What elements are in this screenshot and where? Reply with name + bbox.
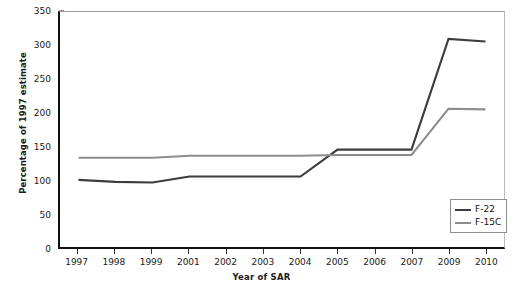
x-axis-title: Year of SAR: [0, 272, 523, 282]
legend-swatch-icon: [455, 222, 471, 224]
legend-swatch-icon: [455, 209, 471, 211]
x-tick-mark: [337, 249, 338, 254]
x-tick-mark: [77, 249, 78, 254]
y-tick-label: 250: [11, 74, 51, 84]
y-tick-label: 50: [11, 210, 51, 220]
y-tick-label: 350: [11, 6, 51, 16]
chart-legend: F-22F-15C: [450, 199, 507, 233]
y-tick-label: 300: [11, 40, 51, 50]
legend-label: F-22: [475, 203, 495, 216]
legend-label: F-15C: [475, 216, 501, 229]
y-tick-label: 100: [11, 176, 51, 186]
y-tick-label: 200: [11, 108, 51, 118]
y-tick-label: 0: [11, 244, 51, 254]
x-tick-mark: [188, 249, 189, 254]
legend-item-f-15c: F-15C: [455, 216, 501, 229]
series-line-f-22: [79, 39, 486, 183]
x-tick-mark: [151, 249, 152, 254]
legend-item-f-22: F-22: [455, 203, 501, 216]
x-tick-mark: [300, 249, 301, 254]
series-line-f-15c: [79, 109, 486, 158]
x-tick-mark: [263, 249, 264, 254]
plot-area: [58, 11, 505, 249]
x-tick-mark: [114, 249, 115, 254]
x-tick-mark: [375, 249, 376, 254]
chart-figure: Percentage of 1997 estimate 050100150200…: [0, 0, 523, 291]
x-tick-mark: [486, 249, 487, 254]
x-tick-mark: [449, 249, 450, 254]
x-tick-mark: [226, 249, 227, 254]
y-tick-label: 150: [11, 142, 51, 152]
series-canvas: [60, 12, 504, 247]
x-tick-label: 2010: [463, 257, 509, 267]
x-tick-mark: [412, 249, 413, 254]
